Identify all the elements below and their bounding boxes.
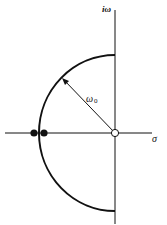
radius-subscript: 0 <box>94 98 98 105</box>
zero-origin <box>111 129 118 136</box>
radius-label: ω <box>86 94 93 104</box>
pole-2 <box>40 129 47 136</box>
imaginary-axis-label: iω <box>102 5 111 14</box>
radius-arrow-line <box>64 80 115 133</box>
s-plane-diagram <box>0 0 167 225</box>
pole-1 <box>30 129 37 136</box>
real-axis-label: σ <box>152 134 157 144</box>
